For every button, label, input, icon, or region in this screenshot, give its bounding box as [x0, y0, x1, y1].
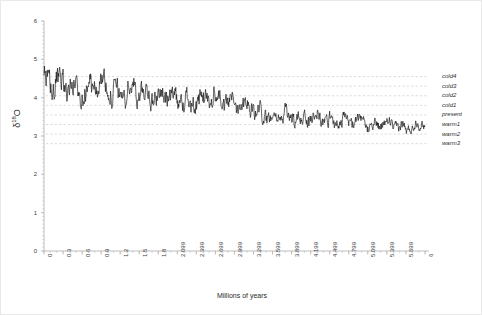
- y-tick-label: 3: [23, 133, 37, 139]
- y-tick-label: 5: [23, 56, 37, 62]
- x-tick-label: 4.499: [332, 242, 338, 257]
- x-tick-label: 3.599: [275, 242, 281, 257]
- reference-line-label-warm1: warm1: [442, 121, 460, 127]
- x-tick-label: 5.399: [389, 242, 395, 257]
- reference-line-label-warm2: warm2: [442, 131, 460, 137]
- x-tick-label: 4.799: [351, 242, 357, 257]
- x-tick-label: 4.199: [313, 242, 319, 257]
- y-tick-label: 0: [23, 248, 37, 254]
- chart-figure: δ18O Millions of years 0123456 00.30.60.…: [0, 0, 482, 315]
- y-tick-label: 1: [23, 210, 37, 216]
- x-tick-label: 3.899: [294, 242, 300, 257]
- x-tick-label: 1.2: [123, 249, 129, 257]
- y-tick-label: 4: [23, 95, 37, 101]
- x-tick-label: 2.399: [199, 242, 205, 257]
- x-tick-label: 1.8: [161, 249, 167, 257]
- x-axis-title: Millions of years: [1, 292, 482, 299]
- reference-line-label-cold3: cold3: [442, 83, 456, 89]
- y-tick-label: 2: [23, 171, 37, 177]
- x-tick-label: 0.6: [85, 249, 91, 257]
- reference-line-label-cold2: cold2: [442, 92, 456, 98]
- x-tick-label: 1.5: [142, 249, 148, 257]
- plot-canvas: [1, 1, 482, 315]
- y-axis-title-delta: δ: [12, 123, 22, 128]
- reference-line-label-cold1: cold1: [442, 102, 456, 108]
- x-tick-label: 2.099: [180, 242, 186, 257]
- reference-line-label-present: present: [442, 111, 462, 117]
- x-tick-label: 0.3: [66, 249, 72, 257]
- x-tick-label: 3.299: [256, 242, 262, 257]
- y-axis-title: δ18O: [11, 109, 22, 128]
- reference-line-label-cold4: cold4: [442, 73, 456, 79]
- x-tick-label: 2.699: [218, 242, 224, 257]
- x-tick-label: 0.9: [104, 249, 110, 257]
- y-axis-title-oxygen: O: [12, 109, 22, 116]
- x-tick-label: 2.999: [237, 242, 243, 257]
- y-tick-label: 6: [23, 18, 37, 24]
- x-tick-label: 6: [428, 254, 434, 257]
- x-tick-label: 5.099: [370, 242, 376, 257]
- x-tick-label: 5.699: [408, 242, 414, 257]
- y-axis-title-superscript: 18: [11, 116, 17, 123]
- x-tick-label: 0: [47, 254, 53, 257]
- reference-line-label-warm3: warm3: [442, 140, 460, 146]
